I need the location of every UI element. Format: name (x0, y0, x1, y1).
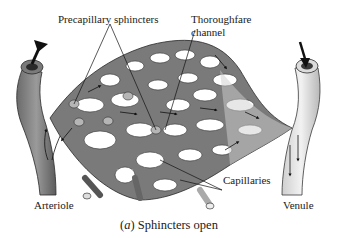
thoroughfare-channel-label-line1: Thoroughfare (191, 13, 251, 25)
figure-caption: (a) Sphincters open (120, 218, 218, 233)
capillaries-label: Capillaries (223, 174, 271, 186)
venule-vessel (282, 42, 320, 195)
caption-text: ) Sphincters open (130, 218, 217, 232)
venule-label: Venule (283, 199, 314, 211)
arteriole-label: Arteriole (34, 199, 74, 211)
precapillary-sphincters-label: Precapillary sphincters (58, 13, 159, 25)
thoroughfare-channel-label-line2: channel (191, 26, 225, 38)
